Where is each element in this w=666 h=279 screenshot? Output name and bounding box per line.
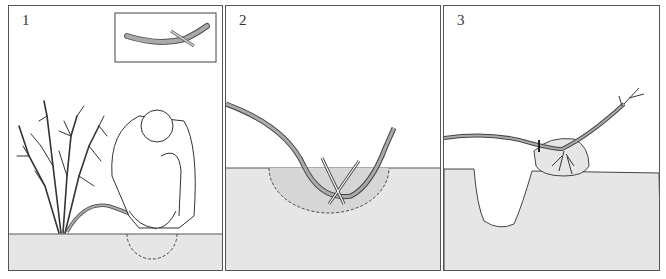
layering-step-3-illustration (444, 6, 660, 271)
panel-1: 1 (8, 5, 223, 271)
panel-3: 3 (443, 5, 660, 271)
layering-step-2-illustration (226, 6, 441, 271)
inset-cut-detail (115, 13, 216, 62)
layering-step-1-illustration (9, 6, 223, 271)
panel-2: 2 (225, 5, 441, 271)
shrub (17, 101, 107, 233)
